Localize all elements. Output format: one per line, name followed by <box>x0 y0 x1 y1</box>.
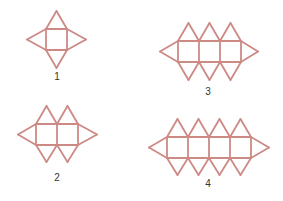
matchstick <box>230 158 241 175</box>
matchstick <box>149 137 167 148</box>
matchstick <box>231 23 242 41</box>
matchstick <box>230 119 241 137</box>
matchstick <box>167 158 178 175</box>
matchstick <box>231 62 242 80</box>
matchstick <box>188 119 199 137</box>
matchstick <box>251 148 269 159</box>
matchstick <box>149 148 167 159</box>
matchstick <box>57 106 68 124</box>
matchstick <box>57 11 68 29</box>
matchstick <box>241 158 252 175</box>
matchstick <box>78 124 97 135</box>
matchstick <box>36 145 47 162</box>
matchstick <box>160 52 178 63</box>
matchstick <box>178 158 189 175</box>
matchstick <box>220 62 231 80</box>
figure-label-1: 1 <box>47 71 67 82</box>
matchstick <box>199 158 210 175</box>
matchstick <box>209 119 220 137</box>
matchstick <box>68 106 79 124</box>
matchstick <box>188 158 199 175</box>
matchstick <box>160 41 178 52</box>
matchstick <box>209 158 220 175</box>
matchstick <box>199 62 210 80</box>
matchstick <box>189 23 200 41</box>
matchstick <box>167 119 178 137</box>
matchstick <box>220 158 231 175</box>
matchstick <box>68 145 79 162</box>
figure-label-4: 4 <box>198 178 218 189</box>
matchstick-figures <box>0 0 283 201</box>
matchstick <box>78 135 97 146</box>
matchstick <box>18 135 36 146</box>
matchstick <box>57 145 68 162</box>
matchstick <box>46 11 57 29</box>
matchstick <box>199 119 210 137</box>
matchstick <box>199 23 210 41</box>
figure-label-2: 2 <box>47 172 67 183</box>
matchstick <box>220 119 231 137</box>
matchstick-diagram: 1 2 3 4 <box>0 0 283 201</box>
matchstick <box>178 62 189 80</box>
matchstick <box>189 62 200 80</box>
matchstick <box>27 40 46 51</box>
matchstick <box>36 106 47 124</box>
matchstick <box>47 145 58 162</box>
matchstick <box>241 119 252 137</box>
figure-label-3: 3 <box>198 86 218 97</box>
matchstick <box>47 106 58 124</box>
matchstick <box>178 119 189 137</box>
matchstick <box>220 23 231 41</box>
matchstick <box>178 23 189 41</box>
matchstick <box>46 50 57 68</box>
matchstick <box>210 23 221 41</box>
matchstick <box>18 124 36 135</box>
matchstick <box>67 40 86 51</box>
matchstick <box>251 137 269 148</box>
matchstick <box>241 52 258 63</box>
matchstick <box>27 29 46 40</box>
matchstick <box>241 41 258 52</box>
matchstick <box>210 62 221 80</box>
matchstick <box>57 50 68 68</box>
matchstick <box>67 29 86 40</box>
